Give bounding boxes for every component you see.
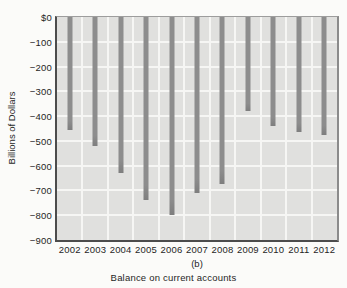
y-tick-label: −600 — [30, 160, 52, 171]
y-tick-label: $0 — [41, 12, 52, 23]
gridline-vertical — [158, 17, 160, 240]
bar-2003 — [93, 17, 98, 146]
y-tick-label: −400 — [30, 111, 52, 122]
bar-2006 — [169, 17, 174, 215]
gridline-vertical — [285, 17, 287, 240]
gridline-vertical — [311, 17, 313, 240]
y-axis-ticks: $0−100−200−300−400−500−600−700−800−900 — [0, 17, 52, 240]
bar-2005 — [144, 17, 149, 200]
bar-2012 — [322, 17, 327, 135]
bar-2009 — [245, 17, 250, 111]
x-tick-label: 2011 — [286, 244, 311, 255]
x-tick-label: 2012 — [312, 244, 337, 255]
gridline-vertical — [234, 17, 236, 240]
bar-2008 — [220, 17, 225, 184]
x-tick-label: 2005 — [133, 244, 158, 255]
gridline-vertical — [209, 17, 211, 240]
gridline-vertical — [107, 17, 109, 240]
chart-caption: Balance on current accounts — [0, 272, 347, 283]
y-tick-label: −900 — [30, 235, 52, 246]
x-tick-label: 2007 — [184, 244, 209, 255]
chart-figure: Billions of Dollars $0−100−200−300−400−5… — [0, 0, 347, 288]
y-tick-label: −700 — [30, 185, 52, 196]
y-tick-label: −800 — [30, 210, 52, 221]
x-tick-label: 2010 — [261, 244, 286, 255]
gridline-vertical — [260, 17, 262, 240]
x-tick-label: 2003 — [82, 244, 107, 255]
x-tick-label: 2009 — [235, 244, 260, 255]
subfigure-label: (b) — [55, 258, 339, 269]
x-axis-ticks: 2002200320042005200620072008200920102011… — [57, 244, 337, 255]
x-tick-label: 2004 — [108, 244, 133, 255]
y-tick-label: −300 — [30, 86, 52, 97]
bar-2011 — [296, 17, 301, 132]
y-tick-label: −500 — [30, 135, 52, 146]
y-tick-label: −100 — [30, 36, 52, 47]
gridline-vertical — [183, 17, 185, 240]
gridline-horizontal — [57, 214, 337, 216]
gridline-vertical — [81, 17, 83, 240]
bar-2010 — [271, 17, 276, 126]
y-tick-label: −200 — [30, 61, 52, 72]
bar-2004 — [118, 17, 123, 173]
gridline-vertical — [132, 17, 134, 240]
plot-area — [55, 16, 339, 242]
x-tick-label: 2002 — [57, 244, 82, 255]
x-tick-label: 2008 — [210, 244, 235, 255]
x-tick-label: 2006 — [159, 244, 184, 255]
bar-2007 — [195, 17, 200, 193]
bar-2002 — [67, 17, 72, 130]
